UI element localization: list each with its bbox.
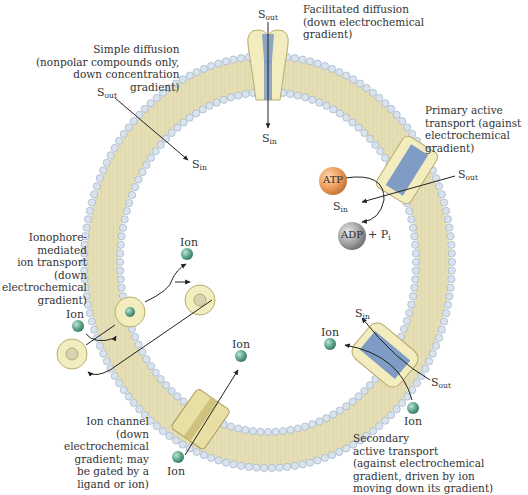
adp-label: ADP: [341, 229, 363, 240]
ion-sphere: [407, 402, 419, 414]
s-in-primary: Sin: [333, 200, 348, 214]
atp-label: ATP: [323, 174, 343, 185]
ion-sphere: [181, 248, 193, 260]
ion-sphere: [235, 350, 247, 362]
s-in-facilitated: Sin: [262, 132, 277, 146]
ion-label: Ion: [66, 308, 84, 321]
ionophore-outside: [57, 339, 87, 369]
ionophore-release-arrow: [145, 264, 186, 302]
facilitated-diffusion-label: Facilitated diffusion (down electrochemi…: [303, 3, 424, 41]
ion-label: Ion: [321, 326, 339, 339]
ion-label: Ion: [404, 415, 422, 428]
ion-sphere: [72, 320, 84, 332]
ionophore-label: Ionophore- mediated ion transport (down …: [2, 231, 87, 306]
s-in-secondary: Sin: [355, 307, 370, 321]
ionophore-inside: [185, 285, 215, 315]
ionophore-in-membrane: [115, 297, 145, 327]
s-out-primary: Sout: [458, 168, 478, 182]
secondary-active-label: Secondary active transport (against elec…: [353, 432, 493, 495]
ion-label: Ion: [167, 465, 185, 478]
membrane-transport-diagram: Simple diffusion (nonpolar compounds onl…: [0, 0, 528, 495]
ion-channel-label: Ion channel (down electrochemical gradie…: [64, 415, 149, 490]
primary-active-label: Primary active transport (against electr…: [425, 104, 521, 154]
s-in-simple: Sin: [192, 158, 207, 172]
ion-label: Ion: [180, 236, 198, 249]
s-out-simple: Sout: [97, 86, 117, 100]
ion-sphere: [324, 338, 336, 350]
phosphate-label: + Pi: [368, 228, 391, 242]
s-out-secondary: Sout: [431, 376, 451, 390]
ion-sphere: [172, 451, 184, 463]
facilitated-diffusion-transporter: [248, 22, 289, 128]
s-out-facilitated: Sout: [258, 8, 278, 22]
ion-label: Ion: [232, 338, 250, 351]
